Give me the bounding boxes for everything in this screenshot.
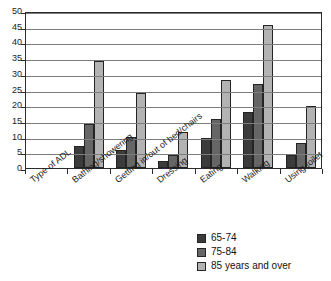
- y-tick-mark: [21, 154, 25, 155]
- legend-swatch: [197, 248, 206, 257]
- y-tick-label: 45: [12, 23, 22, 32]
- y-tick-label: 25: [12, 86, 22, 95]
- x-tick-mark: [67, 169, 68, 174]
- gridline: [26, 60, 321, 61]
- legend-swatch: [197, 234, 206, 243]
- y-tick-mark: [21, 139, 25, 140]
- legend-label: 65-74: [211, 233, 237, 243]
- legend-item: 85 years and over: [197, 259, 291, 273]
- legend-label: 75-84: [211, 247, 237, 257]
- gridline: [26, 123, 321, 124]
- legend-label: 85 years and over: [211, 261, 291, 271]
- x-tick-mark: [152, 169, 153, 174]
- y-tick-label: 50: [12, 7, 22, 16]
- legend-item: 65-74: [197, 231, 291, 245]
- y-tick-label: 40: [12, 38, 22, 47]
- y-tick-mark: [21, 76, 25, 77]
- y-tick-label: 30: [12, 70, 22, 79]
- gridline: [26, 44, 321, 45]
- y-axis: 05101520253035404550: [0, 12, 22, 169]
- bar-group: [68, 13, 110, 168]
- y-tick-label: 5: [17, 148, 22, 157]
- y-tick-label: 15: [12, 117, 22, 126]
- bar: [263, 25, 273, 168]
- bar: [211, 119, 221, 168]
- bar-chart: 05101520253035404550 Type of ADLBathing/…: [0, 0, 331, 281]
- y-tick-mark: [21, 29, 25, 30]
- y-tick-mark: [21, 92, 25, 93]
- bar-group: [196, 13, 238, 168]
- bar: [201, 138, 211, 168]
- x-tick-mark: [322, 169, 323, 174]
- y-tick-label: 20: [12, 101, 22, 110]
- y-tick-mark: [21, 60, 25, 61]
- bar: [286, 155, 296, 168]
- x-tick-mark: [280, 169, 281, 174]
- bar: [243, 112, 253, 168]
- bar-group: [238, 13, 280, 168]
- y-tick-mark: [21, 123, 25, 124]
- chart-legend: 65-7475-8485 years and over: [197, 231, 291, 273]
- gridline: [26, 13, 321, 14]
- bar-group: [26, 13, 68, 168]
- bar: [74, 146, 84, 168]
- y-tick-label: 0: [17, 164, 22, 173]
- x-tick-mark: [110, 169, 111, 174]
- gridline: [26, 76, 321, 77]
- y-tick-label: 35: [12, 54, 22, 63]
- legend-swatch: [197, 262, 206, 271]
- y-tick-mark: [21, 44, 25, 45]
- x-tick-mark: [237, 169, 238, 174]
- plot-area: [25, 12, 322, 169]
- y-tick-label: 10: [12, 133, 22, 142]
- bar: [116, 150, 126, 168]
- legend-item: 75-84: [197, 245, 291, 259]
- gridline: [26, 92, 321, 93]
- x-tick-mark: [195, 169, 196, 174]
- gridline: [26, 29, 321, 30]
- bar: [253, 84, 263, 168]
- bar-groups: [26, 13, 321, 168]
- gridline: [26, 107, 321, 108]
- bar-group: [281, 13, 323, 168]
- y-tick-mark: [21, 107, 25, 108]
- y-tick-mark: [21, 13, 25, 14]
- x-tick-mark: [25, 169, 26, 174]
